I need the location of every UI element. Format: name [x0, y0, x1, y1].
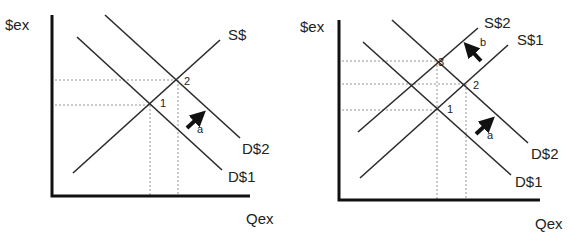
left-arrow-a-label: a: [197, 123, 204, 135]
right-point-2-label: 2: [473, 79, 479, 91]
left-x-axis-label: Qex: [246, 210, 274, 227]
left-demand1-label: D$1: [228, 168, 256, 185]
right-demand2-curve: [392, 20, 528, 143]
right-shift-arrow-b-icon: [469, 48, 481, 61]
right-x-axis-label: Qex: [535, 215, 563, 232]
right-point-1-label: 1: [447, 103, 453, 115]
left-panel: $ex Qex S$ D$1 D$2 1 2 a: [5, 15, 274, 227]
left-supply-curve: [73, 40, 220, 173]
exchange-rate-diagrams: $ex Qex S$ D$1 D$2 1 2 a $ex Qex S$2 S$1…: [0, 0, 573, 238]
right-point-3-label: 3: [438, 56, 444, 68]
left-supply-label: S$: [228, 26, 247, 43]
left-point-2-label: 2: [184, 75, 190, 87]
right-demand2-label: D$2: [531, 145, 559, 162]
right-supply1-label: S$1: [517, 31, 544, 48]
right-demand1-label: D$1: [515, 173, 543, 190]
left-y-axis-label: $ex: [5, 16, 30, 33]
right-panel: $ex Qex S$2 S$1 D$1 D$2 1 2 3 a b: [300, 14, 563, 232]
left-demand2-curve: [105, 15, 240, 138]
right-y-axis-label: $ex: [300, 18, 325, 35]
right-arrow-b-label: b: [480, 36, 486, 48]
right-arrow-a-label: a: [487, 129, 494, 141]
right-supply2-label: S$2: [484, 14, 511, 31]
left-demand2-label: D$2: [242, 140, 270, 157]
diagram-canvas: $ex Qex S$ D$1 D$2 1 2 a $ex Qex S$2 S$1…: [0, 0, 573, 238]
left-point-1-label: 1: [160, 97, 166, 109]
